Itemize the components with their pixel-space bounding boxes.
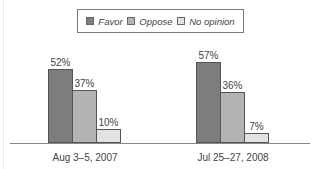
value-label: 7% — [242, 121, 272, 132]
legend-swatch-no-opinion — [177, 17, 185, 25]
value-label: 10% — [94, 117, 124, 128]
legend-item-favor: Favor — [86, 16, 122, 27]
legend-swatch-favor — [86, 17, 94, 25]
x-axis-baseline — [10, 143, 310, 144]
value-label: 37% — [70, 78, 100, 89]
bar-no-opinion — [96, 129, 121, 143]
bar-no-opinion — [244, 133, 269, 143]
bar-favor — [196, 62, 221, 143]
bar-oppose — [220, 92, 245, 143]
value-label: 52% — [46, 57, 76, 68]
legend-label: No opinion — [189, 16, 234, 27]
left-rule — [3, 0, 4, 169]
legend-label: Oppose — [139, 16, 172, 27]
legend-label: Favor — [98, 16, 122, 27]
legend-item-oppose: Oppose — [127, 16, 172, 27]
legend-item-no-opinion: No opinion — [177, 16, 234, 27]
category-label: Jul 25–27, 2008 — [173, 152, 293, 163]
chart-legend: Favor Oppose No opinion — [77, 9, 244, 33]
category-label: Aug 3–5, 2007 — [25, 152, 145, 163]
value-label: 57% — [194, 50, 224, 61]
legend-swatch-oppose — [127, 17, 135, 25]
value-label: 36% — [218, 80, 248, 91]
